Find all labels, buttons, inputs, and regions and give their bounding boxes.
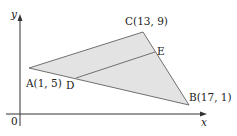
y-axis-arrow-icon [18,14,23,21]
x-axis-label: x [201,116,207,128]
diagram-canvas: y x 0 C(13, 9) E A(1, 5) D B(17, 1) [0,0,237,136]
point-b-label: B(17, 1) [189,91,232,103]
point-c-label: C(13, 9) [125,15,168,27]
triangle-abc [29,32,189,105]
y-axis-label: y [10,8,18,20]
point-a-label: A(1, 5) [25,77,62,89]
point-e-label: E [157,45,165,57]
point-d-label: D [66,79,74,91]
origin-label: 0 [11,115,18,127]
